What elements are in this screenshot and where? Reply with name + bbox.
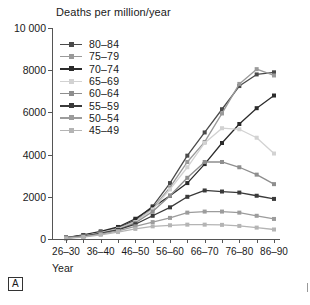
- x-tick: [257, 239, 258, 243]
- y-tick-label: 4000: [23, 149, 46, 161]
- y-tick-label: 0: [40, 233, 46, 245]
- x-tick: [222, 239, 223, 243]
- x-tick: [205, 239, 206, 243]
- x-tick-label: 86–90: [260, 246, 288, 257]
- x-tick: [187, 239, 188, 243]
- x-tick-label: 66–70: [191, 246, 219, 257]
- page-edge-mark: [307, 283, 308, 292]
- legend-label: 80–84: [89, 38, 119, 50]
- y-tick: [48, 70, 52, 71]
- series-60-64: [64, 160, 276, 240]
- legend-swatch-icon: [60, 77, 82, 86]
- y-tick: [48, 197, 52, 198]
- legend-swatch-icon: [60, 126, 82, 135]
- x-tick-label: 36–40: [87, 246, 115, 257]
- y-tick-label: 6000: [23, 106, 46, 118]
- x-tick-label: 56–60: [156, 246, 184, 257]
- figure-panel-a: Deaths per million/year 0200040006000800…: [0, 0, 310, 305]
- x-tick: [274, 239, 275, 243]
- legend-swatch-icon: [60, 113, 82, 122]
- legend-label: 55–59: [89, 100, 119, 112]
- legend-label: 50–54: [89, 112, 119, 124]
- x-tick: [135, 239, 136, 243]
- legend-item-80-84[interactable]: 80–84: [60, 38, 119, 50]
- legend-swatch-icon: [60, 89, 82, 98]
- x-tick: [118, 239, 119, 243]
- panel-tag: A: [8, 277, 23, 291]
- y-tick-label: 10 000: [14, 22, 46, 34]
- legend-item-70-74[interactable]: 70–74: [60, 63, 119, 75]
- legend-label: 60–64: [89, 87, 119, 99]
- y-axis-line: [52, 28, 53, 240]
- legend-label: 45–49: [89, 124, 119, 136]
- x-axis-line: [52, 239, 280, 240]
- legend-item-75-79[interactable]: 75–79: [60, 50, 119, 62]
- legend-swatch-icon: [60, 64, 82, 73]
- y-tick-label: 8000: [23, 64, 46, 76]
- x-tick-label: 26–30: [52, 246, 80, 257]
- x-tick: [170, 239, 171, 243]
- x-tick: [66, 239, 67, 243]
- x-tick-label: 46–50: [121, 246, 149, 257]
- series-45-49: [64, 223, 276, 241]
- x-tick-label: 76–80: [225, 246, 253, 257]
- y-tick: [48, 239, 52, 240]
- y-tick: [48, 155, 52, 156]
- x-tick: [101, 239, 102, 243]
- legend-swatch-icon: [60, 101, 82, 110]
- legend-item-55-59[interactable]: 55–59: [60, 99, 119, 111]
- x-axis-label: Year: [52, 262, 73, 274]
- legend-item-45-49[interactable]: 45–49: [60, 124, 119, 136]
- y-tick: [48, 28, 52, 29]
- legend-label: 70–74: [89, 63, 119, 75]
- legend-swatch-icon: [60, 40, 82, 49]
- legend-label: 65–69: [89, 75, 119, 87]
- legend-item-60-64[interactable]: 60–64: [60, 87, 119, 99]
- chart-title: Deaths per million/year: [56, 6, 171, 18]
- chart-legend: 80–8475–7970–7465–6960–6455–5950–5445–49: [60, 38, 119, 136]
- x-tick: [239, 239, 240, 243]
- x-tick: [83, 239, 84, 243]
- y-tick-label: 2000: [23, 191, 46, 203]
- legend-item-50-54[interactable]: 50–54: [60, 112, 119, 124]
- legend-swatch-icon: [60, 52, 82, 61]
- x-tick: [153, 239, 154, 243]
- legend-item-65-69[interactable]: 65–69: [60, 75, 119, 87]
- y-tick: [48, 112, 52, 113]
- legend-label: 75–79: [89, 50, 119, 62]
